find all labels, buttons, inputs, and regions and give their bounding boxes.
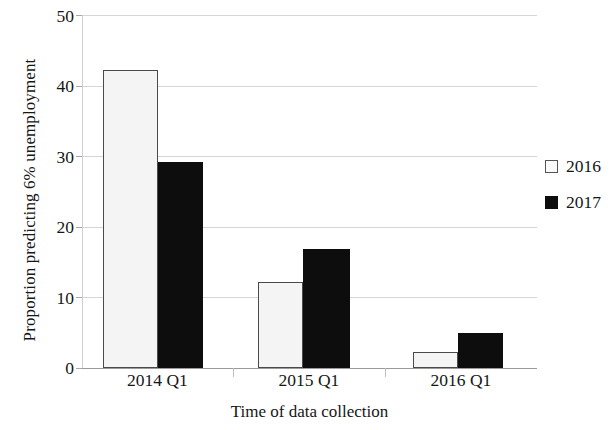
y-tick-label: 30 bbox=[28, 149, 74, 167]
legend-label: 2017 bbox=[566, 194, 601, 212]
y-axis-tick-labels: 50 40 30 20 10 0 bbox=[26, 0, 74, 430]
x-tick-label-2015q1: 2015 Q1 bbox=[233, 372, 385, 390]
x-tick-label-2014q1: 2014 Q1 bbox=[82, 372, 233, 390]
bar-2014Q1-2016 bbox=[103, 70, 158, 368]
bar-2016Q1-2017 bbox=[458, 333, 503, 368]
open-square-swatch-icon bbox=[545, 160, 558, 173]
y-tick-label: 50 bbox=[28, 8, 74, 26]
legend-item-2017: 2017 bbox=[545, 194, 601, 212]
bar-2014Q1-2017 bbox=[158, 162, 203, 368]
x-tick-label-2016q1: 2016 Q1 bbox=[385, 372, 537, 390]
gridline bbox=[82, 15, 537, 16]
y-tick-label: 40 bbox=[28, 78, 74, 96]
bar-chart: Proportion predicting 6% unemployment 50… bbox=[0, 0, 615, 430]
plot-area bbox=[82, 15, 537, 368]
x-axis-line bbox=[82, 368, 537, 369]
y-tick-label: 20 bbox=[28, 219, 74, 237]
y-tick-label: 10 bbox=[28, 290, 74, 308]
bar-2016Q1-2016 bbox=[413, 352, 458, 368]
filled-square-swatch-icon bbox=[545, 196, 558, 209]
bar-2015Q1-2016 bbox=[258, 282, 303, 368]
legend-label: 2016 bbox=[566, 158, 601, 176]
bar-2015Q1-2017 bbox=[303, 249, 350, 368]
x-axis-title: Time of data collection bbox=[82, 402, 537, 422]
y-tick-label: 0 bbox=[28, 360, 74, 378]
y-axis-line bbox=[82, 15, 83, 368]
legend-item-2016: 2016 bbox=[545, 158, 601, 176]
